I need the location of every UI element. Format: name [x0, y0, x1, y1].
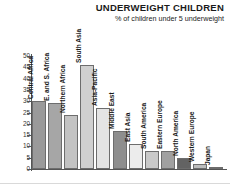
underweight-children-chart: UNDERWEIGHT CHILDREN % of children under…: [0, 0, 230, 185]
y-axis-tick-mark: [27, 90, 31, 91]
bar-label: South America: [139, 79, 147, 149]
x-axis-line: [31, 169, 227, 170]
bar-label: Central Africa: [27, 29, 35, 99]
bar-label: Middle East: [107, 59, 115, 129]
bar-label: Northern Africa: [59, 43, 67, 113]
bar-series: Central AfricaE. and S. AfricaNorthern A…: [32, 40, 226, 169]
y-axis-tick-mark: [27, 67, 31, 68]
bar[interactable]: [64, 115, 78, 169]
bar-label: Japan: [204, 95, 212, 165]
bar-label: Eastern Europe: [156, 79, 164, 149]
bottom-rule: [0, 183, 230, 184]
chart-header: UNDERWEIGHT CHILDREN % of children under…: [0, 2, 228, 24]
y-axis-tick-mark: [27, 56, 31, 57]
bar-label: East Asia: [123, 72, 131, 142]
bar[interactable]: [209, 167, 223, 169]
bar-label: North America: [172, 86, 180, 156]
bar-label: Asia-Pacific: [91, 36, 99, 106]
bar[interactable]: [145, 151, 159, 169]
bar[interactable]: [48, 103, 62, 169]
y-axis-tick-mark: [27, 146, 31, 147]
y-axis-tick-mark: [27, 135, 31, 136]
y-axis-tick-mark: [27, 169, 31, 170]
y-axis-tick-mark: [27, 101, 31, 102]
bar-label: South Asia: [75, 0, 83, 63]
bar-label: Western Europe: [188, 92, 196, 162]
y-axis-tick-mark: [27, 113, 31, 114]
bar[interactable]: [193, 164, 207, 169]
bar[interactable]: [32, 101, 46, 169]
y-axis-tick-mark: [27, 158, 31, 159]
y-axis-tick-mark: [27, 79, 31, 80]
chart-subtitle: % of children under 5 underweight: [0, 14, 224, 24]
bar-label: E. and S. Africa: [43, 31, 51, 101]
y-axis-tick-mark: [27, 124, 31, 125]
chart-title: UNDERWEIGHT CHILDREN: [0, 2, 224, 13]
bar-group[interactable]: Japan: [209, 40, 223, 169]
